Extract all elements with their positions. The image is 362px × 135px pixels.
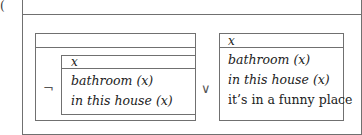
nested-drs-box: x bathroom (x) in this house (x) [61, 55, 196, 115]
nested-drs-condition: in this house (x) [71, 94, 173, 108]
right-drs-referent: x [228, 35, 235, 47]
disjunction-operator: ∨ [201, 81, 211, 96]
right-drs-universe-divider [220, 47, 343, 48]
right-drs-box: x bathroom (x) in this house (x) it’s in… [219, 33, 344, 121]
nested-drs-universe-divider [62, 68, 195, 69]
right-drs-condition: in this house (x) [228, 73, 330, 87]
negated-drs-universe-divider [36, 47, 195, 48]
outer-drs-universe-divider [23, 14, 361, 15]
negation-operator: ¬ [43, 80, 54, 95]
example-label: ( [0, 0, 5, 13]
nested-drs-condition: bathroom (x) [71, 74, 153, 88]
right-drs-condition: it’s in a funny place [228, 93, 353, 107]
nested-drs-referent: x [71, 56, 78, 68]
right-drs-condition: bathroom (x) [228, 53, 310, 67]
